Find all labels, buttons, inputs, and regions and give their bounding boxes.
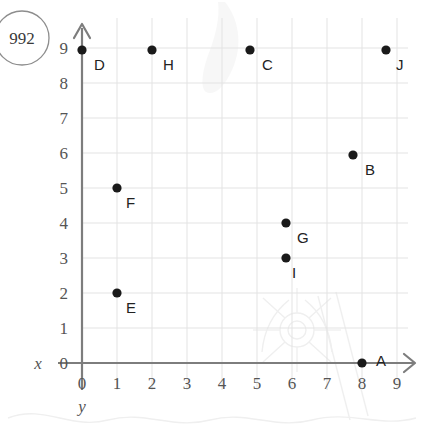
point-dot-E[interactable] [112,288,121,297]
y-tick-1: 1 [60,319,69,338]
point-dot-C[interactable] [245,45,254,54]
y-tick-8: 8 [60,74,69,93]
worksheet-page: 9 8 7 6 5 4 3 2 1 0 0 1 2 3 4 5 6 7 8 9 … [0,0,422,436]
data-points-group: A B C D E F G [77,45,403,369]
point-label-G: G [297,229,309,246]
x-tick-2: 2 [148,374,157,393]
y-tick-6: 6 [60,144,69,163]
x-axis-name: x [33,354,42,373]
point-label-A: A [376,352,386,369]
point-label-D: D [94,56,105,73]
y-tick-9: 9 [60,39,69,58]
x-tick-9: 9 [393,374,402,393]
point-dot-I[interactable] [281,253,290,262]
y-tick-3: 3 [60,249,69,268]
y-tick-2: 2 [60,284,69,303]
watermark-group [8,2,416,423]
point-dot-J[interactable] [381,45,390,54]
flower-watermark [253,288,341,372]
page-number-text: 992 [9,29,35,48]
point-label-I: I [292,264,296,281]
y-tick-0: 0 [60,354,69,373]
point-label-H: H [163,56,174,73]
point-dot-G[interactable] [281,218,290,227]
coordinate-plane: 9 8 7 6 5 4 3 2 1 0 0 1 2 3 4 5 6 7 8 9 … [0,0,422,436]
x-tick-4: 4 [218,374,227,393]
point-label-B: B [365,161,375,178]
x-tick-7: 7 [323,374,332,393]
point-label-C: C [262,56,273,73]
y-tick-4: 4 [60,214,69,233]
data-point-C[interactable]: C [245,45,273,73]
point-label-F: F [126,194,135,211]
point-label-J: J [396,56,404,73]
x-tick-5: 5 [253,374,262,393]
data-point-J[interactable]: J [381,45,403,73]
point-dot-A[interactable] [357,358,366,367]
point-dot-F[interactable] [112,183,121,192]
point-dot-D[interactable] [77,45,86,54]
x-tick-1: 1 [113,374,122,393]
x-axis-tick-labels: 0 1 2 3 4 5 6 7 8 9 [78,374,402,393]
y-tick-5: 5 [60,179,69,198]
y-axis-name: y [76,397,86,416]
y-tick-7: 7 [60,109,69,128]
x-tick-3: 3 [183,374,192,393]
x-tick-6: 6 [288,374,297,393]
data-point-H[interactable]: H [147,45,173,73]
point-dot-H[interactable] [147,45,156,54]
point-dot-B[interactable] [348,150,357,159]
x-tick-0: 0 [78,374,87,393]
page-number-badge: 992 [0,11,49,65]
axis-lines [58,24,415,390]
y-axis-tick-labels: 9 8 7 6 5 4 3 2 1 0 [60,39,69,373]
x-tick-8: 8 [358,374,367,393]
point-label-E: E [126,299,136,316]
